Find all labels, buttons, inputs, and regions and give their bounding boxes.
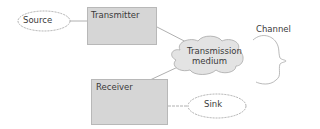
channel-brace xyxy=(253,36,286,84)
transmission-medium-label-line1: Transmission xyxy=(187,46,242,56)
sink-label: Sink xyxy=(204,99,222,109)
transmission-medium-label-line2: medium xyxy=(192,56,227,66)
edge-medium-receiver xyxy=(150,66,180,80)
channel-label: Channel xyxy=(256,24,291,34)
transmitter-label: Transmitter xyxy=(91,10,140,20)
source-label: Source xyxy=(23,15,52,25)
receiver-label: Receiver xyxy=(96,82,133,92)
